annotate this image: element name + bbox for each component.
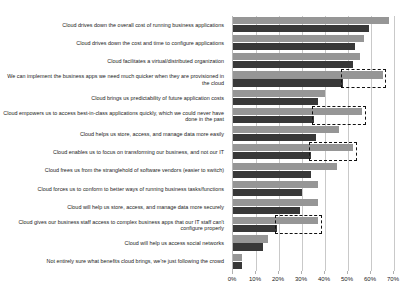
category-label: Cloud brings us predictability of future… <box>91 95 224 102</box>
bar-group <box>233 16 394 34</box>
bar-series-dark <box>233 134 316 141</box>
x-tick-label: 10% <box>249 276 261 282</box>
category-label: Cloud will help us store, access, and ma… <box>67 204 224 211</box>
category-label: Cloud forces us to conform to better way… <box>38 186 224 193</box>
category-label: Cloud drives down the cost and time to c… <box>76 40 224 47</box>
bar-series-dark <box>233 25 369 32</box>
bar-series-light <box>233 108 362 115</box>
bar-series-light <box>233 181 318 188</box>
bar-series-light <box>233 217 318 224</box>
category-label-column: Cloud drives down the overall cost of ru… <box>0 16 228 271</box>
grid-line-70 <box>394 16 395 271</box>
bar-series-dark <box>233 61 353 68</box>
bar-series-dark <box>233 43 355 50</box>
bar-group <box>233 34 394 52</box>
bar-group <box>233 89 394 107</box>
bar-series-light <box>233 144 353 151</box>
bar-series-light <box>233 126 339 133</box>
bar-group <box>233 52 394 70</box>
bar-group <box>233 253 394 271</box>
category-row: Cloud helps us store, access, and manage… <box>0 125 228 143</box>
category-row: Cloud drives down the cost and time to c… <box>0 34 228 52</box>
bar-group <box>233 235 394 253</box>
category-row: Cloud frees us from the stranglehold of … <box>0 162 228 180</box>
bar-series-dark <box>233 262 242 269</box>
bar-series-dark <box>233 171 311 178</box>
x-tick-60 <box>370 271 371 274</box>
bar-series-light <box>233 199 318 206</box>
x-tick-label: 60% <box>364 276 376 282</box>
x-tick-label: 30% <box>295 276 307 282</box>
bar-series-dark <box>233 225 277 232</box>
category-row: We can implement the business apps we ne… <box>0 71 228 89</box>
bar-group <box>233 107 394 125</box>
bar-series-dark <box>233 152 311 159</box>
category-row: Cloud forces us to conform to better way… <box>0 180 228 198</box>
x-tick-label: 70% <box>387 276 399 282</box>
x-tick-label: 0% <box>228 276 237 282</box>
bar-series-light <box>233 17 389 24</box>
bar-series-dark <box>233 207 300 214</box>
bar-series-dark <box>233 243 263 250</box>
bar-group <box>233 180 394 198</box>
bar-series-dark <box>233 98 318 105</box>
bar-series-light <box>233 163 337 170</box>
x-tick-10 <box>255 271 256 274</box>
bar-group <box>233 125 394 143</box>
x-tick-50 <box>347 271 348 274</box>
x-tick-label: 50% <box>341 276 353 282</box>
category-label: Not entirely sure what benefits cloud br… <box>46 258 224 265</box>
x-axis: 0%10%20%30%40%50%60%70% <box>232 271 393 293</box>
category-label: Cloud facilitates a virtual/distributed … <box>107 58 224 65</box>
category-label: Cloud enables us to focus on transformin… <box>53 149 224 156</box>
bar-series-light <box>233 35 364 42</box>
category-row: Cloud gives our business staff access to… <box>0 216 228 234</box>
category-row: Cloud enables us to focus on transformin… <box>0 143 228 161</box>
x-tick-40 <box>324 271 325 274</box>
bar-group <box>233 216 394 234</box>
bar-series-light <box>233 71 383 78</box>
x-tick-30 <box>301 271 302 274</box>
bar-series-light <box>233 90 325 97</box>
plot-area <box>232 16 394 271</box>
category-label: We can implement the business apps we ne… <box>0 73 224 86</box>
x-tick-0 <box>232 271 233 274</box>
bar-series-light <box>233 254 242 261</box>
bar-group <box>233 71 394 89</box>
bar-series-dark <box>233 79 343 86</box>
category-row: Cloud drives down the overall cost of ru… <box>0 16 228 34</box>
category-row: Cloud brings us predictability of future… <box>0 89 228 107</box>
category-label: Cloud gives our business staff access to… <box>0 219 224 232</box>
category-row: Not entirely sure what benefits cloud br… <box>0 253 228 271</box>
x-tick-20 <box>278 271 279 274</box>
bar-series-light <box>233 235 268 242</box>
category-label: Cloud frees us from the stranglehold of … <box>45 167 224 174</box>
x-tick-label: 40% <box>318 276 330 282</box>
bar-group <box>233 162 394 180</box>
category-label: Cloud helps us store, access, and manage… <box>80 131 224 138</box>
bar-series-light <box>233 53 360 60</box>
category-row: Cloud will help us store, access, and ma… <box>0 198 228 216</box>
x-tick-70 <box>393 271 394 274</box>
bar-group <box>233 198 394 216</box>
x-tick-label: 20% <box>272 276 284 282</box>
category-label: Cloud empowers us to access best-in-clas… <box>0 110 224 123</box>
horizontal-bar-chart: Cloud drives down the overall cost of ru… <box>0 0 416 301</box>
category-row: Cloud facilitates a virtual/distributed … <box>0 52 228 70</box>
category-row: Cloud empowers us to access best-in-clas… <box>0 107 228 125</box>
category-label: Cloud will help us access social network… <box>125 240 224 247</box>
category-label: Cloud drives down the overall cost of ru… <box>62 22 224 29</box>
bar-series-dark <box>233 116 314 123</box>
category-row: Cloud will help us access social network… <box>0 234 228 252</box>
bar-series-dark <box>233 189 302 196</box>
bar-group <box>233 144 394 162</box>
